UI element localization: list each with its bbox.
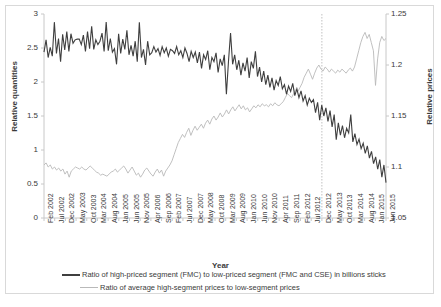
series-line-quantities xyxy=(44,22,386,182)
legend-swatch-dark-icon xyxy=(62,274,80,276)
left-axis-tick-label: 0 xyxy=(8,213,38,222)
right-axis-tick-label: 1.15 xyxy=(391,111,407,120)
x-axis-tick-label: Feb 2002 xyxy=(47,193,54,223)
x-axis-tick-label: Mar 2009 xyxy=(229,193,236,223)
left-axis-tick-label: 1 xyxy=(8,145,38,154)
right-axis-title: Relative prices xyxy=(425,57,434,137)
left-axis-tick-label: 2 xyxy=(8,77,38,86)
x-axis-tick-label: Aug 2014 xyxy=(368,193,375,223)
left-axis-tick-label: 3 xyxy=(8,9,38,18)
x-axis-tick-label: Jan 2010 xyxy=(250,194,257,223)
series-line-prices xyxy=(44,32,386,177)
x-axis-tick-label: Jan 2005 xyxy=(122,194,129,223)
x-axis-tick-label: Jul 2012 xyxy=(314,197,321,223)
x-axis-tick-label: May 2013 xyxy=(336,192,343,223)
x-axis-tick-label: Sep 2011 xyxy=(293,194,300,223)
chart-legend: Ratio of high-priced segment (FMC) to lo… xyxy=(40,268,440,294)
x-axis-tick-label: Aug 2004 xyxy=(111,193,118,223)
x-axis-tick-label: Nov 2010 xyxy=(271,193,278,223)
x-axis-tick-label: Jul 2002 xyxy=(58,197,65,223)
left-axis-tick-label: 0.5 xyxy=(8,179,38,188)
x-axis-tick-label: Nov 2005 xyxy=(143,193,150,223)
legend-label: Ratio of high-priced segment (FMC) to lo… xyxy=(82,270,386,279)
left-axis-title: Relative quantities xyxy=(10,57,19,137)
x-axis-tick-label: Oct 2013 xyxy=(346,195,353,223)
right-axis-tick-label: 1.1 xyxy=(391,162,402,171)
x-axis-tick-label: Dec 2012 xyxy=(325,193,332,223)
legend-item: Ratio of average high-segment prices to … xyxy=(40,281,440,294)
chart-figure: Relative quantities Relative prices Year… xyxy=(0,0,441,307)
x-axis-tick-label: May 2008 xyxy=(207,192,214,223)
x-axis-tick-label: Aug 2009 xyxy=(239,193,246,223)
x-axis-tick-label: Jun 2010 xyxy=(261,194,268,223)
x-axis-tick-label: Oct 2003 xyxy=(90,195,97,223)
x-axis-tick-label: Mar 2004 xyxy=(100,193,107,223)
x-axis-tick-label: Dec 2007 xyxy=(197,193,204,223)
x-axis-tick-label: Jun 2005 xyxy=(133,194,140,223)
x-axis-tick-label: Jan 2015 xyxy=(378,194,385,223)
left-axis-tick-label: 2.5 xyxy=(8,43,38,52)
legend-item: Ratio of high-priced segment (FMC) to lo… xyxy=(40,268,440,281)
x-axis-tick-label: May 2003 xyxy=(79,192,86,223)
x-axis-tick-label: Apr 2006 xyxy=(154,195,161,223)
x-axis-tick-label: Jul 2007 xyxy=(186,197,193,223)
x-axis-tick-label: Oct 2008 xyxy=(218,195,225,223)
x-axis-tick-label: Dec 2002 xyxy=(68,193,75,223)
legend-swatch-grey-icon xyxy=(80,287,98,288)
right-axis-tick-label: 1.2 xyxy=(391,60,402,69)
x-axis-tick-label: Apr 2011 xyxy=(282,195,289,223)
right-axis-tick-label: 1.25 xyxy=(391,9,407,18)
x-axis-tick-label: Feb 2007 xyxy=(175,193,182,223)
x-axis-tick-label: Mar 2014 xyxy=(357,193,364,223)
legend-label: Ratio of average high-segment prices to … xyxy=(100,283,300,292)
x-axis-tick-label: Jun 2015 xyxy=(389,194,396,223)
x-axis-tick-label: Feb 2012 xyxy=(304,193,311,223)
left-axis-tick-label: 1.5 xyxy=(8,111,38,120)
x-axis-tick-label: Sep 2006 xyxy=(165,193,172,223)
